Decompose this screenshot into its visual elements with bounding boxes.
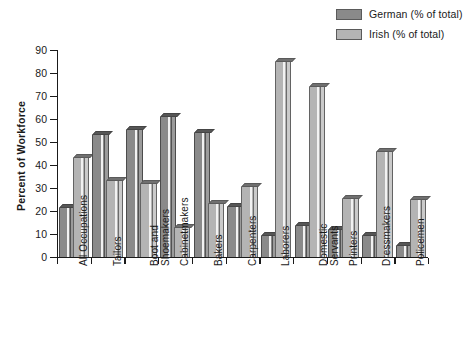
x-category-label-10: Policemen [415, 218, 426, 266]
legend-item-german: German (% of total) [336, 5, 463, 23]
bar-german-10 [396, 246, 409, 256]
bar-top-face [73, 154, 93, 158]
bar-german-9 [362, 236, 375, 257]
y-tick-label-20: 20 [7, 206, 47, 217]
x-category-label-9: Dressmakers [381, 206, 392, 266]
y-tick-label-30: 30 [7, 183, 47, 194]
legend-item-irish: Irish (% of total) [336, 25, 463, 43]
x-tick-5 [226, 258, 227, 264]
bar-top-face [194, 129, 214, 133]
bar-german-0 [59, 208, 72, 256]
bar-face [295, 226, 308, 257]
x-tick-1 [91, 258, 92, 264]
bar-highlight [236, 207, 238, 256]
y-tick-80 [50, 73, 57, 74]
y-tick-label-50: 50 [7, 137, 47, 148]
x-tick-0 [57, 258, 58, 264]
bar-german-7 [295, 226, 308, 257]
bar-face [396, 246, 409, 256]
x-category-label-2: Boot and Shoemakers [149, 209, 171, 266]
legend-swatch-irish [336, 29, 362, 40]
y-tick-label-80: 80 [7, 68, 47, 79]
bar-face [194, 133, 207, 257]
x-category-label-7: Domestic Servants [318, 224, 340, 266]
bar-highlight [202, 133, 204, 257]
x-category-label-3: Cabinetmakers [179, 197, 190, 266]
bar-face [261, 236, 274, 257]
y-tick-label-0: 0 [7, 252, 47, 263]
legend-label-german: German (% of total) [369, 8, 463, 20]
bar-face [362, 236, 375, 257]
y-tick-label-90: 90 [7, 45, 47, 56]
y-tick-40 [50, 165, 57, 166]
bar-highlight [404, 246, 406, 256]
bar-highlight [101, 135, 103, 257]
x-tick-7 [293, 258, 294, 264]
x-tick-2 [124, 258, 125, 264]
bar-top-face [208, 200, 228, 204]
bar-highlight [135, 130, 137, 256]
y-tick-20 [50, 211, 57, 212]
bar-german-5 [227, 207, 240, 256]
legend-label-irish: Irish (% of total) [369, 28, 444, 40]
bar-face [59, 208, 72, 256]
x-tick-6 [259, 258, 260, 264]
x-category-label-8: Printers [348, 231, 359, 266]
chart-legend: German (% of total) Irish (% of total) [336, 5, 463, 45]
bar-highlight [269, 236, 271, 257]
y-tick-90 [50, 50, 57, 51]
bar-top-face [92, 131, 112, 135]
bar-top-face [241, 183, 261, 187]
bar-top-face [126, 126, 146, 130]
x-category-label-5: Carpenters [247, 216, 258, 266]
y-tick-label-40: 40 [7, 160, 47, 171]
y-tick-label-60: 60 [7, 114, 47, 125]
x-tick-4 [192, 258, 193, 264]
bar-german-2 [126, 130, 139, 256]
x-tick-11 [428, 258, 429, 264]
bar-top-face [342, 195, 362, 199]
bar-highlight [303, 226, 305, 257]
bar-highlight [371, 236, 373, 257]
y-tick-30 [50, 188, 57, 189]
y-tick-label-10: 10 [7, 229, 47, 240]
x-category-label-6: Laborers [280, 226, 291, 266]
legend-swatch-german [336, 9, 362, 20]
x-tick-10 [394, 258, 395, 264]
bar-top-face [106, 177, 126, 181]
x-tick-9 [361, 258, 362, 264]
x-category-label-4: Bakers [213, 234, 224, 266]
y-tick-10 [50, 234, 57, 235]
y-tick-50 [50, 142, 57, 143]
bar-top-face [376, 148, 396, 152]
bar-german-4 [194, 133, 207, 257]
bar-top-face [275, 58, 295, 62]
y-tick-60 [50, 119, 57, 120]
bar-top-face [140, 180, 160, 184]
y-axis-title: Percent of Workforce [15, 91, 27, 221]
bar-top-face [410, 196, 430, 200]
x-category-label-1: Tailors [112, 236, 123, 266]
bar-top-face [160, 113, 180, 117]
bar-face [126, 130, 139, 256]
bar-top-face [309, 83, 329, 87]
bar-german-1 [92, 135, 105, 257]
x-category-label-0: All Occupations [78, 195, 89, 266]
bar-german-6 [261, 236, 274, 257]
y-tick-70 [50, 96, 57, 97]
bar-face [92, 135, 105, 257]
y-tick-0 [50, 257, 57, 258]
y-tick-label-70: 70 [7, 91, 47, 102]
bar-face [227, 207, 240, 256]
plot-area: 0102030405060708090 [57, 50, 428, 258]
bar-highlight [67, 208, 69, 256]
